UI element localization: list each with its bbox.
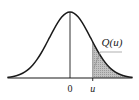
tail-area-label: Q(u)	[102, 36, 123, 49]
gaussian-tail-figure: 0 u Q(u)	[0, 0, 139, 100]
origin-tick-label: 0	[68, 83, 73, 94]
threshold-tick-label: u	[90, 83, 95, 94]
gaussian-plot-svg: 0 u Q(u)	[0, 0, 139, 100]
